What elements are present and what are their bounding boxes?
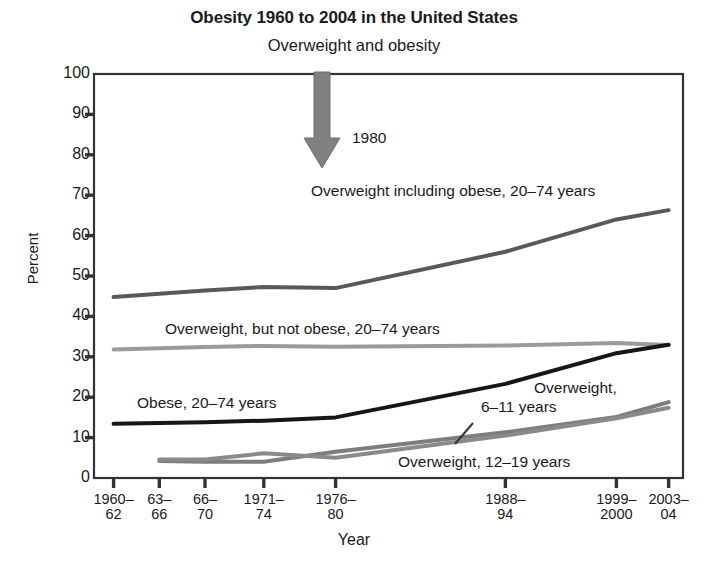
series-line-0 <box>114 210 669 297</box>
series-line-1 <box>114 343 669 349</box>
label-overweight-6-11-line2: 6–11 years <box>481 398 557 415</box>
label-overweight-6-11-line1: Overweight, <box>534 379 617 396</box>
chart-figure: Obesity 1960 to 2004 in the United State… <box>0 0 708 576</box>
arrow-1980-label: 1980 <box>352 129 386 146</box>
label-overweight-including-obese: Overweight including obese, 20–74 years <box>311 182 595 199</box>
plot-canvas <box>0 0 708 576</box>
label-overweight-12-19: Overweight, 12–19 years <box>398 453 570 470</box>
1980-marker-arrow-icon <box>304 72 340 168</box>
label-overweight-not-obese: Overweight, but not obese, 20–74 years <box>165 320 440 337</box>
series-line-4 <box>159 408 668 460</box>
label-obese: Obese, 20–74 years <box>137 394 277 411</box>
